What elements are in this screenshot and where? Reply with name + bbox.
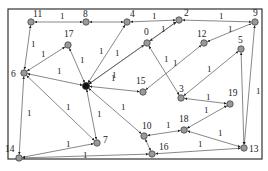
node-15	[140, 89, 146, 95]
node-1	[82, 82, 89, 89]
node-0	[144, 40, 150, 46]
node-9	[252, 19, 258, 25]
node-label: 6	[11, 69, 16, 79]
node-13	[241, 145, 247, 151]
edge-weight-label: 1	[164, 54, 169, 64]
node-label: 8	[83, 9, 88, 19]
edge-weight-label: 1	[152, 11, 157, 21]
node-label: 0	[144, 27, 149, 37]
edge-weight-label: 1	[97, 109, 102, 119]
node-3	[178, 95, 184, 101]
edge-2-9	[182, 20, 251, 22]
edge-weight-label: 1	[27, 108, 32, 118]
node-label: 10	[142, 121, 152, 131]
graph-frame	[8, 9, 262, 159]
node-label: 13	[249, 144, 259, 154]
graph-diagram: 1111111111111111111111111111 02345678910…	[0, 0, 268, 171]
edge-1-15	[89, 86, 139, 91]
edge-weight-label: 1	[218, 128, 223, 138]
edge-6-14	[19, 76, 24, 154]
edge-13-5	[241, 52, 244, 144]
node-label: 4	[130, 9, 135, 19]
node-4	[124, 19, 130, 25]
edge-18-13	[187, 131, 240, 147]
edge-6-1	[27, 74, 82, 86]
node-label: 11	[33, 9, 42, 19]
edge-weight-label: 1	[121, 102, 126, 112]
nodes-layer: 02345678910111213141516171819	[5, 8, 259, 161]
edge-weight-label: 1	[41, 49, 46, 59]
node-8	[83, 19, 89, 25]
edge-weight-label: 1	[161, 24, 166, 34]
node-label: 9	[253, 8, 258, 18]
edge-weight-label: 1	[66, 139, 71, 149]
edge-17-1	[69, 48, 84, 83]
edge-weight-label: 1	[115, 48, 120, 58]
node-label: 16	[159, 142, 169, 152]
node-label: 12	[197, 29, 207, 39]
node-label: 17	[64, 29, 74, 39]
edge-weight-label: 1	[219, 11, 224, 21]
edge-weight-label: 1	[31, 39, 36, 49]
edge-7-1	[87, 89, 97, 139]
node-label: 18	[179, 114, 189, 124]
node-14	[16, 155, 22, 161]
edge-weight-label: 1	[204, 105, 209, 115]
node-18	[181, 127, 187, 133]
edge-weight-label: 1	[173, 58, 178, 68]
edge-weight-label: 1	[198, 139, 203, 149]
node-19	[227, 101, 233, 107]
node-label: 3	[179, 84, 184, 94]
edge-weight-label: 1	[166, 120, 171, 130]
edge-weight-label: 1	[207, 64, 212, 74]
edge-10-16	[145, 139, 150, 151]
edge-13-9	[244, 25, 254, 144]
node-label: 19	[228, 88, 238, 98]
node-5	[238, 46, 244, 52]
edge-4-1	[88, 25, 125, 83]
node-label: 14	[5, 144, 15, 154]
node-label: 7	[103, 135, 108, 145]
edge-weight-label: 1	[83, 150, 88, 160]
edge-weight-label: 1	[228, 24, 233, 34]
edge-weight-label: 1	[111, 73, 116, 83]
edge-11-6	[24, 25, 30, 69]
node-16	[149, 151, 155, 157]
node-label: 15	[136, 76, 146, 86]
edge-weight-label: 1	[66, 102, 71, 112]
edge-weight-label: 1	[80, 55, 85, 65]
edge-weight-label: 1	[206, 92, 211, 102]
edge-weight-label: 1	[57, 66, 62, 76]
node-10	[141, 133, 147, 139]
node-11	[28, 19, 34, 25]
node-6	[21, 70, 27, 76]
edge-10-18	[147, 131, 180, 136]
node-7	[94, 140, 100, 146]
node-label: 2	[184, 8, 189, 18]
node-12	[201, 40, 207, 46]
edge-weight-label: 1	[60, 11, 65, 21]
node-2	[176, 17, 182, 23]
edge-weight-label: 1	[99, 46, 104, 56]
node-label: 5	[238, 35, 243, 45]
edge-weight-label: 1	[256, 86, 261, 96]
node-17	[65, 42, 71, 48]
